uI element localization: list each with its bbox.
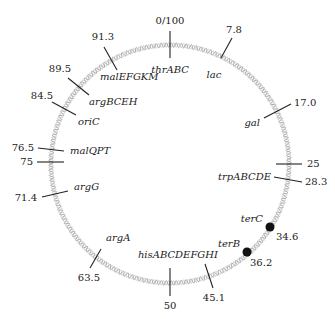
gene-label-malQPT: malQPT — [70, 145, 112, 156]
gene-label-malEFGKM: malEFGKM — [100, 71, 159, 82]
marker-75: 75 — [20, 156, 64, 167]
terC-dot-icon — [266, 223, 275, 232]
gene-label-argA: argA — [106, 232, 130, 243]
position-label-36-2: 36.2 — [250, 257, 272, 268]
chromosome-map: 0/100 thrABC 7.8 lac 17.0 gal 25 28.3 tr… — [0, 0, 335, 319]
position-label-45-1: 45.1 — [203, 292, 225, 303]
marker-25: 25 — [276, 158, 320, 169]
marker-terB: terB 36.2 — [218, 238, 272, 268]
position-label-28-3: 28.3 — [305, 176, 327, 187]
marker-terC: terC 34.6 — [241, 213, 299, 242]
marker-50: 50 — [164, 268, 177, 311]
position-label-25: 25 — [307, 158, 320, 169]
position-label-89-5: 89.5 — [49, 63, 71, 74]
position-label-84-5: 84.5 — [31, 90, 53, 101]
marker-trpABCDE: 28.3 trpABCDE — [218, 171, 327, 187]
gene-label-lac: lac — [207, 69, 222, 80]
position-label-76-5: 76.5 — [12, 142, 34, 153]
position-label-50: 50 — [164, 300, 177, 311]
position-label-91-3: 91.3 — [92, 31, 114, 42]
position-label-0-100: 0/100 — [156, 15, 185, 26]
gene-label-gal: gal — [244, 117, 260, 128]
gene-label-hisABCDEFGHI: hisABCDEFGHI — [138, 249, 219, 260]
marker-malEFGKM: malEFGKM 91.3 — [92, 31, 159, 82]
position-label-17-0: 17.0 — [294, 97, 316, 108]
gene-label-argBCEH: argBCEH — [89, 96, 138, 107]
position-label-75: 75 — [20, 156, 33, 167]
position-label-34-6: 34.6 — [276, 231, 298, 242]
gene-label-argG: argG — [74, 181, 99, 192]
gene-label-trpABCDE: trpABCDE — [218, 171, 272, 182]
gene-label-terB: terB — [218, 238, 240, 249]
position-label-7-8: 7.8 — [226, 24, 242, 35]
terB-dot-icon — [243, 248, 252, 257]
marker-malQPT: malQPT 76.5 — [12, 142, 112, 156]
gene-label-terC: terC — [241, 213, 264, 224]
position-label-71-4: 71.4 — [15, 192, 37, 203]
gene-label-oriC: oriC — [78, 116, 100, 127]
position-label-63-5: 63.5 — [78, 272, 100, 283]
